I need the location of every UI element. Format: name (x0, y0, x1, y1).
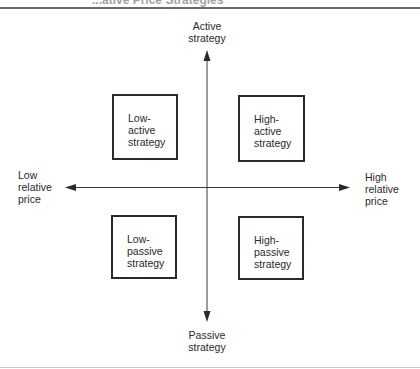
arrow-left-icon (65, 184, 76, 191)
quadrant-high-active: High- active strategy (238, 95, 305, 162)
arrow-up-icon (204, 50, 211, 61)
quadrant-high-passive: High- passive strategy (238, 216, 304, 280)
arrow-right-icon (339, 184, 350, 191)
arrow-down-icon (204, 311, 211, 322)
axis-label-active-strategy: Active strategy (182, 20, 232, 44)
axis-label-passive-strategy: Passive strategy (182, 329, 232, 353)
quadrant-label: Low- passive strategy (127, 233, 164, 269)
axis-label-low-relative-price: Low relative price (18, 169, 52, 205)
quadrant-low-passive: Low- passive strategy (111, 215, 177, 279)
quadrant-label: Low- active strategy (128, 112, 165, 148)
quadrant-label: High- active strategy (254, 113, 291, 149)
axis-label-high-relative-price: High relative price (365, 171, 399, 207)
axes (0, 0, 420, 369)
quadrant-label: High- passive strategy (254, 234, 291, 270)
quadrant-low-active: Low- active strategy (112, 94, 178, 160)
